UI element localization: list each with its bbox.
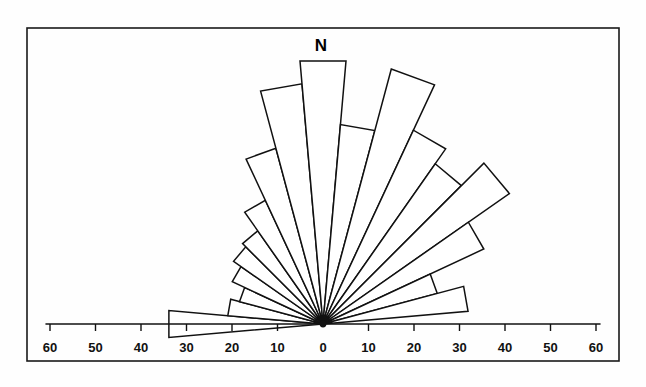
axis-tick-label: 30 <box>452 340 466 355</box>
axis-tick-label: 60 <box>43 340 57 355</box>
axis-tick-label: 50 <box>88 340 102 355</box>
axis-tick-label: 20 <box>225 340 239 355</box>
axis-tick-label-group: 6050403020100102030405060 <box>43 340 603 355</box>
axis-tick-label: 0 <box>319 340 326 355</box>
axis-tick-label: 20 <box>407 340 421 355</box>
axis-tick-label: 50 <box>543 340 557 355</box>
axis-tick-label: 30 <box>179 340 193 355</box>
axis-tick-label: 40 <box>498 340 512 355</box>
axis-tick-label: 60 <box>589 340 603 355</box>
axis-tick-label: 40 <box>134 340 148 355</box>
axis-tick-label: 10 <box>270 340 284 355</box>
rose-diagram-figure: 6050403020100102030405060 N <box>0 0 646 387</box>
origin-marker <box>320 321 327 328</box>
north-label: N <box>315 36 327 55</box>
rose-diagram-svg: 6050403020100102030405060 N <box>0 0 646 387</box>
petal-group <box>169 61 509 337</box>
axis-tick-label: 10 <box>361 340 375 355</box>
